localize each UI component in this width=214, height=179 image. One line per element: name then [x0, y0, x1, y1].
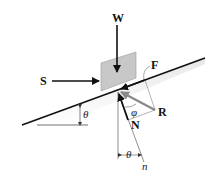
friction-label: F	[151, 58, 158, 72]
push-force-label: S	[40, 74, 47, 88]
normal-axis-label: n	[142, 160, 148, 172]
theta-incline-label: θ	[83, 108, 89, 120]
weight-label: W	[112, 11, 124, 25]
theta-normal-label: θ	[126, 148, 132, 160]
normal-force-label: N	[131, 118, 140, 132]
resultant-label: R	[158, 105, 167, 119]
inclined-plane-diagram: θ n θ W S F R N φ	[0, 0, 214, 179]
phi-label: φ	[131, 106, 137, 118]
